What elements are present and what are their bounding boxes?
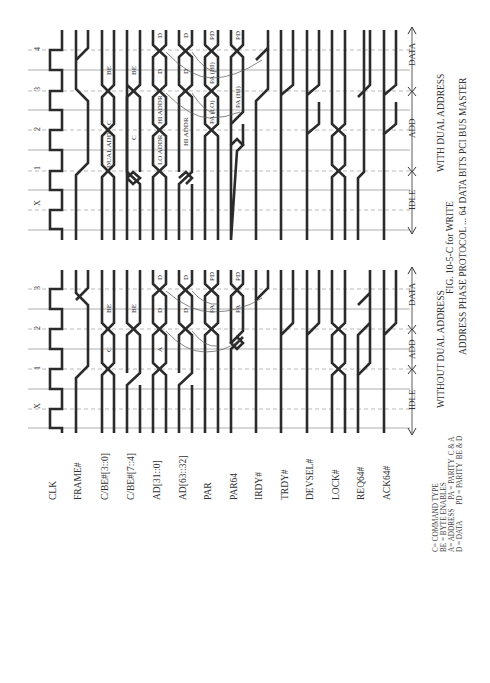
signal-ad31: AD[31::0]	[152, 460, 162, 500]
bus-label: BE	[130, 304, 138, 313]
bus-label: PD	[208, 272, 216, 281]
phase-idle: IDLE	[407, 389, 417, 410]
bus-label: D	[156, 69, 164, 74]
bus-label: D	[156, 275, 164, 280]
clock-label: 2	[33, 326, 42, 330]
bus-label: PD	[234, 31, 242, 40]
caption-without-dual: WITHOUT DUAL ADDRESS	[436, 290, 446, 408]
wave-clk	[50, 270, 62, 433]
signal-trdy: TRDY#	[280, 469, 290, 500]
parity-arrows-lower	[166, 291, 262, 352]
phase-data: DATA	[407, 282, 417, 306]
phase-idle: IDLE	[407, 189, 417, 210]
bus-label: D	[156, 33, 164, 38]
clock-label: X	[33, 403, 42, 409]
signal-ack64: ACK64#	[382, 465, 392, 500]
bus-label: BE	[105, 66, 113, 75]
bus-label: BE	[130, 66, 138, 75]
legend-line: BE = BYTE ENABLES	[440, 482, 448, 552]
legend-line: A= ADDRESS PA = PARITY C & A	[448, 436, 456, 552]
bus-label: D	[156, 308, 164, 313]
phase-axis-upper: IDLE ADD DATA	[407, 27, 417, 234]
bus-label: PA (HI)	[208, 62, 216, 84]
legend-line: C= COMMAND TYPE	[432, 483, 440, 552]
bus-label: PA (HI)	[234, 86, 242, 108]
bus-label: D	[182, 33, 190, 38]
clock-label: X	[33, 200, 42, 206]
phase-add: ADD	[407, 339, 417, 359]
signal-clk: CLK	[48, 481, 58, 500]
signal-cbe74: C/BE#[7::4]	[126, 453, 136, 500]
figure-subtitle: ADDRESS PHASE PROTOCOL ... 64 DATA BITS …	[458, 77, 468, 355]
phase-data: DATA	[407, 42, 417, 66]
figure-title: FIG. 10-5-C for WRITE	[445, 201, 455, 294]
bus-label: C	[130, 135, 138, 140]
clock-labels-lower: X 1 2 3	[33, 286, 42, 409]
legend-line: D = DATA PD = PARITY BE & D	[456, 436, 464, 552]
bus-labels-lower: C BE BE A D D D D PA PD PA PD	[105, 272, 242, 352]
clock-label: 3	[33, 286, 42, 290]
caption-with-dual: WITH DUAL ADDRESS	[436, 74, 446, 172]
bus-label: LO ADDR	[156, 134, 164, 165]
bus-label: A	[156, 347, 164, 352]
clock-label: 4	[33, 47, 42, 51]
bus-label: HI ADDR	[156, 95, 164, 124]
bus-label: PD	[234, 272, 242, 281]
signal-names: CLK FRAME# C/BE#[3::0] C/BE#[7::4] AD[31…	[48, 453, 392, 500]
signal-cbe30: C/BE#[3::0]	[100, 453, 110, 500]
clock-labels-upper: X 1 2 3 4	[33, 47, 42, 206]
bus-label: HI ADDR	[182, 117, 190, 146]
bus-labels-upper: DUAL ADD C BE C BE LO ADDR HI ADDR D D H…	[105, 31, 242, 168]
signal-devsel: DEVSEL#	[305, 459, 315, 500]
waves-upper	[50, 30, 396, 240]
signal-req64: REQ64#	[356, 467, 366, 501]
bus-label: PD	[208, 31, 216, 40]
signal-par: PAR	[203, 482, 213, 500]
bus-label: C	[105, 120, 113, 125]
bus-label: D	[182, 275, 190, 280]
clock-label: 3	[33, 87, 42, 91]
legend: C= COMMAND TYPE BE = BYTE ENABLES A= ADD…	[432, 436, 464, 552]
signal-par64: PAR64	[229, 473, 239, 500]
bus-label: D	[182, 308, 190, 313]
waves-lower	[50, 270, 396, 433]
phase-add: ADD	[407, 118, 417, 138]
bus-label: DUAL ADD	[105, 132, 113, 168]
wave-clk	[50, 30, 62, 240]
signal-lock: LOCK#	[331, 469, 341, 500]
signal-ad63: AD[63::32]	[178, 456, 188, 500]
bus-label: BE	[105, 304, 113, 313]
clock-label: 1	[33, 366, 42, 370]
clock-label: 2	[33, 127, 42, 131]
signal-frame: FRAME#	[73, 462, 83, 500]
clock-label: 1	[33, 166, 42, 170]
signal-irdy: IRDY#	[254, 472, 264, 500]
phase-axis-lower: IDLE ADD DATA	[407, 267, 417, 435]
bus-label: C	[105, 347, 113, 352]
timing-diagram: X 1 2 3 4 X 1 2 3 CLK FRAME# C/BE#[3::0]…	[0, 0, 490, 683]
